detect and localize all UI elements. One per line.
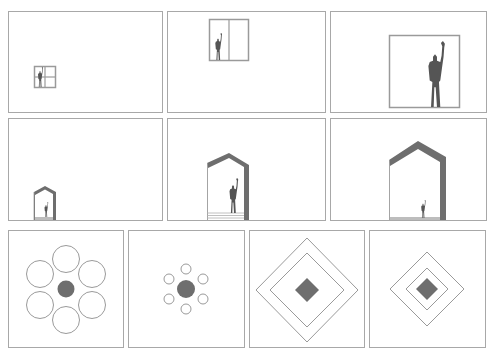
panel-wide-diamonds bbox=[250, 231, 365, 348]
panel-large-circles bbox=[9, 231, 124, 348]
panel-small-house bbox=[9, 119, 163, 221]
panel-small-window bbox=[9, 12, 163, 113]
panel-large-window bbox=[331, 12, 487, 113]
center-circle bbox=[58, 281, 75, 298]
panel-small-circles bbox=[129, 231, 245, 348]
center-circle bbox=[177, 280, 195, 298]
panel-large-house bbox=[331, 119, 487, 221]
panel-medium-house bbox=[168, 119, 326, 221]
panel-medium-window bbox=[168, 12, 326, 113]
diagram-canvas bbox=[0, 0, 495, 353]
panel-tight-diamonds bbox=[370, 231, 486, 348]
